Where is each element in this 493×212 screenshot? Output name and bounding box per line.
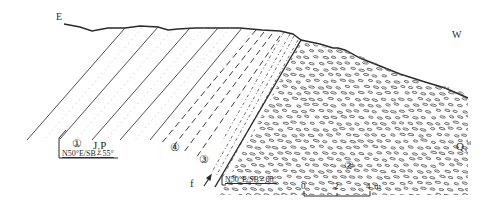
- bedding-lines: [27, 27, 242, 140]
- scale-tick-2: 2: [334, 182, 339, 191]
- direction-east-label: E: [56, 12, 62, 22]
- unit-main: Q: [456, 140, 464, 152]
- scale-tick-4: 4: [366, 182, 371, 191]
- direction-west-label: W: [452, 30, 461, 40]
- ground-surface: [64, 24, 468, 98]
- bedding-attitude-label: N50°E/SB∠55°: [62, 150, 114, 158]
- layer-marker-4: ④: [170, 142, 180, 153]
- fault-label: f: [190, 178, 194, 189]
- fault-arrow-icon: [204, 175, 211, 186]
- layer-marker-2: ②: [344, 160, 354, 171]
- unit-sub: 3: [464, 148, 467, 154]
- shale-dashes: [160, 30, 280, 158]
- unit-sup: el: [467, 140, 471, 146]
- fault-attitude-label: N50°E/SB∠60°: [225, 176, 277, 184]
- scale-bar: [304, 191, 370, 196]
- scale-tick-0: 0: [301, 182, 306, 191]
- scale-unit: m: [374, 182, 381, 191]
- layer-marker-1: ①: [72, 138, 82, 149]
- unit-label-q3el: Q3el: [456, 140, 471, 154]
- layer-marker-3: ③: [199, 154, 209, 165]
- fault-breccia-zone: [206, 32, 298, 178]
